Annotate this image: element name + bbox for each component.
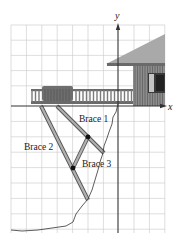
cliff-house-brace-diagram: y x Brace 1 Brace 2 Brace 3 [0,0,179,246]
deck-bench [42,86,73,101]
y-axis-arrow-icon [116,23,120,30]
joint-dot-lower [71,166,76,171]
brace-1-label: Brace 1 [79,114,109,124]
house-roof [106,34,165,66]
x-axis-label: x [167,101,173,112]
brace-3-label: Brace 3 [82,159,112,169]
brace-2-label: Brace 2 [24,142,54,152]
joint-dot-upper [86,135,91,140]
y-axis-label: y [114,10,120,21]
house-wall [133,66,165,106]
